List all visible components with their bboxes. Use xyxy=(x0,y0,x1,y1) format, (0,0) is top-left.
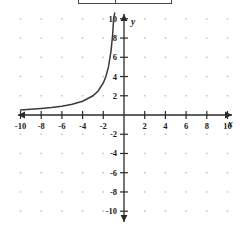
grid-dot xyxy=(103,95,104,96)
grid-dot xyxy=(185,153,186,154)
x-tick-label: -10 xyxy=(15,121,26,131)
grid-dot xyxy=(82,153,83,154)
grid-dot xyxy=(165,172,166,173)
grid-dot xyxy=(82,134,83,135)
x-tick-label: 6 xyxy=(184,121,188,131)
grid-dot xyxy=(82,191,83,192)
grid-dot xyxy=(82,37,83,38)
grid-dot xyxy=(165,37,166,38)
x-axis-label: x xyxy=(227,119,233,129)
grid-dot xyxy=(206,134,207,135)
graph-screenshot: -10-8-6-4-2246810108642-2-4-6-8-10 y x xyxy=(0,0,250,239)
grid-dot xyxy=(227,134,228,135)
grid-dot xyxy=(185,76,186,77)
grid-dot xyxy=(165,18,166,19)
grid-dot xyxy=(20,76,21,77)
grid-dot xyxy=(103,76,104,77)
grid-dot xyxy=(165,191,166,192)
grid-dot xyxy=(144,134,145,135)
grid-dot xyxy=(41,57,42,58)
x-tick-label: -4 xyxy=(79,121,87,131)
grid-dot xyxy=(82,172,83,173)
grid-dot xyxy=(103,57,104,58)
grid-dot xyxy=(144,191,145,192)
coordinate-plane: -10-8-6-4-2246810108642-2-4-6-8-10 y x xyxy=(0,0,250,239)
grid-dot xyxy=(185,211,186,212)
grid-dot xyxy=(206,37,207,38)
grid-dot xyxy=(185,134,186,135)
grid-dot xyxy=(103,172,104,173)
grid-dot xyxy=(103,18,104,19)
grid-dot xyxy=(185,18,186,19)
grid-dot xyxy=(206,95,207,96)
y-tick-label: 8 xyxy=(113,33,117,43)
grid-dot xyxy=(227,172,228,173)
grid-dot xyxy=(82,57,83,58)
grid-dot xyxy=(41,76,42,77)
y-tick-label: -6 xyxy=(110,168,117,178)
grid-dot xyxy=(165,134,166,135)
x-axis-arrow-left xyxy=(18,112,25,119)
grid-dot xyxy=(103,37,104,38)
axes-layer xyxy=(18,14,232,222)
grid-dot xyxy=(20,18,21,19)
grid-dot xyxy=(227,191,228,192)
grid-dot xyxy=(165,57,166,58)
x-tick-label: 8 xyxy=(205,121,209,131)
grid-dot xyxy=(165,76,166,77)
grid-dot xyxy=(144,18,145,19)
grid-dot xyxy=(41,18,42,19)
y-tick-label: -2 xyxy=(110,129,117,139)
grid-dot xyxy=(206,153,207,154)
grid-dot xyxy=(82,76,83,77)
x-tick-label: -8 xyxy=(38,121,45,131)
grid-dot xyxy=(20,57,21,58)
y-axis-label: y xyxy=(130,17,136,27)
grid-dot xyxy=(144,37,145,38)
grid-dot xyxy=(227,95,228,96)
y-tick-label: 2 xyxy=(113,91,117,101)
grid-dot xyxy=(20,37,21,38)
grid-dot xyxy=(185,95,186,96)
graph-svg: -10-8-6-4-2246810108642-2-4-6-8-10 y x xyxy=(0,0,250,239)
grid-dot xyxy=(61,37,62,38)
grid-dot xyxy=(144,172,145,173)
grid-dot xyxy=(103,134,104,135)
y-tick-label: 4 xyxy=(113,72,118,82)
grid-dot xyxy=(227,211,228,212)
grid-dot xyxy=(61,211,62,212)
grid-dot xyxy=(41,172,42,173)
x-tick-label: 2 xyxy=(143,121,147,131)
grid-dot xyxy=(82,18,83,19)
grid-dot xyxy=(206,191,207,192)
grid-dot xyxy=(41,211,42,212)
grid-dot xyxy=(227,57,228,58)
grid-dot xyxy=(61,95,62,96)
grid-dot xyxy=(144,153,145,154)
grid-dot xyxy=(61,134,62,135)
grid-dot xyxy=(165,95,166,96)
grid-dot xyxy=(206,57,207,58)
grid-dot xyxy=(206,211,207,212)
grid-dot xyxy=(185,172,186,173)
grid-dot xyxy=(61,191,62,192)
grid-dot xyxy=(185,57,186,58)
grid-dot xyxy=(20,172,21,173)
grid-dot xyxy=(144,95,145,96)
grid-dot xyxy=(165,153,166,154)
grid-dot xyxy=(103,191,104,192)
grid-dot xyxy=(227,37,228,38)
grid-dot xyxy=(41,191,42,192)
curve-branch-upper-left xyxy=(21,13,115,110)
grid-dot xyxy=(41,134,42,135)
grid-dot xyxy=(20,95,21,96)
grid-dot xyxy=(227,153,228,154)
grid-dot xyxy=(82,211,83,212)
grid-dot xyxy=(144,76,145,77)
grid-dot xyxy=(227,18,228,19)
grid-dot xyxy=(227,76,228,77)
grid-dot xyxy=(185,37,186,38)
x-tick-label: 4 xyxy=(163,121,168,131)
grid-dot xyxy=(41,153,42,154)
x-tick-label: -2 xyxy=(100,121,107,131)
